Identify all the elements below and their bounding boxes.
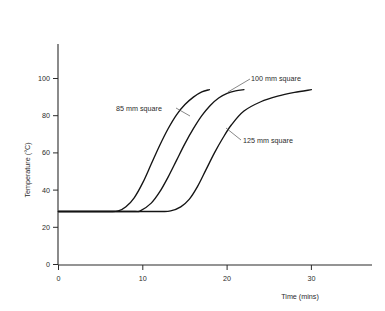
- y-tick-label: 40: [42, 186, 50, 195]
- x-tick-label: 0: [57, 274, 61, 283]
- x-axis-ticks: [59, 265, 312, 270]
- y-tick-label: 20: [42, 223, 50, 232]
- annotation-leaders: [176, 79, 250, 140]
- y-axis-ticks: [53, 79, 58, 265]
- series-label-85mm: 85 mm square: [116, 104, 162, 113]
- y-tick-label: 100: [38, 74, 50, 83]
- x-tick-label: 30: [307, 274, 315, 283]
- annotation-labels: 85 mm square 100 mm square 125 mm square: [116, 74, 301, 145]
- series-label-100mm: 100 mm square: [251, 74, 301, 83]
- y-tick-label: 60: [42, 148, 50, 157]
- x-tick-label: 20: [223, 274, 231, 283]
- y-tick-label: 0: [46, 260, 50, 269]
- series-group: [59, 90, 312, 212]
- x-axis-tick-labels: 0 10 20 30: [57, 274, 316, 283]
- x-axis-title: Time (mins): [281, 292, 319, 301]
- x-tick-label: 10: [139, 274, 147, 283]
- series-label-125mm: 125 mm square: [243, 136, 293, 145]
- y-axis-title: Temperature (°C): [23, 142, 32, 197]
- series-line-125mm: [59, 90, 312, 212]
- y-tick-label: 80: [42, 111, 50, 120]
- chart-svg: 0 20 40 60 80 100 0 10 20 30 Time (mins)…: [0, 0, 385, 311]
- chart-figure: 0 20 40 60 80 100 0 10 20 30 Time (mins)…: [0, 0, 385, 311]
- leader-line-125mm: [226, 128, 241, 140]
- y-axis-tick-labels: 0 20 40 60 80 100: [38, 74, 50, 269]
